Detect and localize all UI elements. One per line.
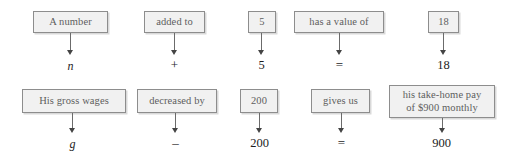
phrase-box: added to: [144, 11, 205, 33]
result-label: =: [319, 58, 360, 72]
arrow-head-icon: [67, 50, 73, 55]
phrase-box: 18: [428, 11, 459, 33]
arrow-head-icon: [338, 128, 344, 133]
result-label: 5: [241, 58, 282, 72]
result-label: +: [154, 58, 195, 72]
arrow-head-icon: [336, 50, 342, 55]
arrow-head-icon: [439, 128, 445, 133]
result-label: –: [155, 136, 196, 150]
phrase-box: has a value of: [294, 11, 384, 33]
arrow-head-icon: [172, 128, 178, 133]
translation-diagram: A number n added to + 5 5 has a value of…: [0, 0, 521, 162]
result-label: g: [52, 137, 93, 151]
result-label: =: [321, 136, 362, 150]
arrow-head-icon: [440, 50, 446, 55]
phrase-box: His gross wages: [22, 89, 126, 113]
result-label: n: [50, 59, 91, 73]
arrow-head-icon: [256, 128, 262, 133]
result-label: 900: [421, 136, 462, 150]
result-label: 18: [423, 58, 464, 72]
arrow-head-icon: [69, 128, 75, 133]
phrase-box: A number: [33, 11, 108, 33]
arrow-head-icon: [171, 50, 177, 55]
arrow-head-icon: [258, 50, 264, 55]
phrase-box: 5: [248, 11, 276, 33]
phrase-box: decreased by: [137, 89, 217, 113]
phrase-box: 200: [240, 89, 278, 113]
phrase-box: gives us: [311, 89, 370, 113]
phrase-box: his take-home pay of $900 monthly: [389, 85, 495, 118]
result-label: 200: [239, 136, 280, 150]
